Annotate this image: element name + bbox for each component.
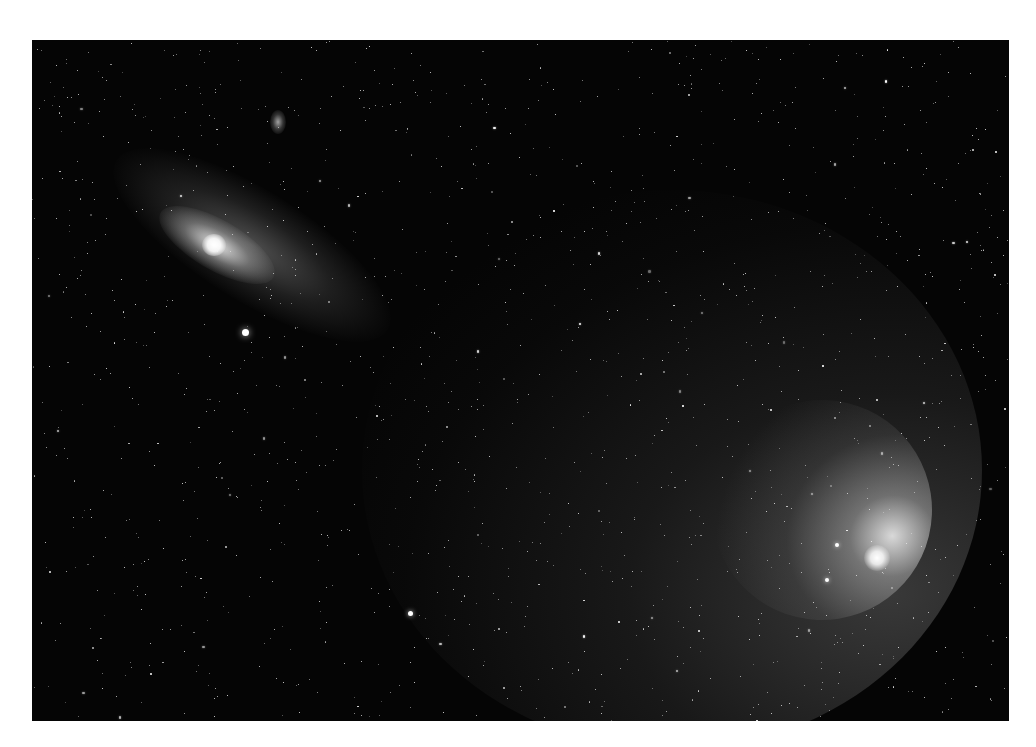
star bbox=[667, 41, 668, 42]
star bbox=[448, 540, 449, 541]
star bbox=[329, 41, 330, 42]
star bbox=[985, 389, 986, 390]
star bbox=[794, 307, 795, 308]
star bbox=[207, 172, 208, 173]
star bbox=[941, 401, 942, 402]
star bbox=[719, 83, 720, 84]
star bbox=[609, 522, 610, 523]
star bbox=[824, 230, 825, 231]
star bbox=[135, 304, 136, 305]
star bbox=[579, 323, 581, 325]
star bbox=[465, 469, 466, 470]
star bbox=[471, 149, 473, 151]
star bbox=[631, 211, 632, 212]
star bbox=[238, 60, 239, 61]
star bbox=[734, 119, 735, 120]
star bbox=[691, 544, 692, 545]
star bbox=[923, 402, 925, 404]
star bbox=[123, 311, 125, 313]
star bbox=[267, 121, 268, 122]
star bbox=[691, 88, 692, 89]
star bbox=[432, 469, 433, 470]
star bbox=[941, 350, 943, 352]
star bbox=[922, 621, 923, 622]
star bbox=[251, 183, 252, 184]
star bbox=[206, 411, 207, 412]
star bbox=[190, 442, 191, 443]
star bbox=[634, 519, 635, 520]
star bbox=[530, 174, 531, 175]
star bbox=[690, 75, 691, 76]
star bbox=[835, 359, 836, 360]
star bbox=[869, 214, 871, 216]
star bbox=[227, 695, 228, 696]
star bbox=[274, 629, 275, 630]
star bbox=[671, 209, 673, 211]
star bbox=[580, 569, 581, 570]
star bbox=[544, 717, 545, 718]
star bbox=[347, 529, 348, 530]
star bbox=[925, 317, 926, 318]
star bbox=[439, 337, 440, 338]
star bbox=[798, 399, 799, 400]
star bbox=[942, 711, 944, 713]
star bbox=[611, 171, 612, 172]
star bbox=[674, 170, 675, 171]
star bbox=[207, 540, 208, 541]
star bbox=[523, 293, 524, 294]
star bbox=[373, 372, 374, 373]
star bbox=[710, 678, 711, 679]
star bbox=[940, 54, 941, 55]
star bbox=[145, 116, 146, 117]
star bbox=[666, 711, 667, 712]
star bbox=[175, 151, 176, 152]
star bbox=[607, 395, 608, 396]
star bbox=[607, 235, 608, 236]
star bbox=[82, 179, 83, 180]
star bbox=[227, 127, 228, 128]
star bbox=[695, 535, 696, 536]
star bbox=[400, 102, 402, 104]
star bbox=[621, 532, 622, 533]
star bbox=[637, 482, 638, 483]
star bbox=[928, 612, 929, 613]
star bbox=[973, 347, 974, 348]
star bbox=[584, 651, 585, 652]
star bbox=[112, 290, 113, 291]
star bbox=[399, 181, 400, 182]
star bbox=[525, 124, 526, 125]
star bbox=[514, 265, 515, 266]
star bbox=[199, 87, 200, 88]
star bbox=[643, 258, 644, 259]
star bbox=[911, 194, 913, 196]
star bbox=[883, 414, 884, 415]
star bbox=[131, 43, 132, 44]
star bbox=[186, 388, 187, 389]
star bbox=[101, 638, 102, 639]
star bbox=[951, 698, 952, 699]
star bbox=[130, 662, 132, 664]
star bbox=[182, 483, 183, 484]
star bbox=[540, 237, 541, 238]
star bbox=[381, 701, 382, 702]
star bbox=[761, 613, 762, 614]
star bbox=[333, 460, 334, 461]
star bbox=[59, 106, 60, 107]
star bbox=[410, 497, 411, 498]
star bbox=[58, 427, 59, 428]
star bbox=[789, 192, 790, 193]
star bbox=[713, 143, 714, 144]
star bbox=[539, 215, 540, 216]
star bbox=[292, 267, 293, 268]
star bbox=[888, 356, 889, 357]
star bbox=[94, 199, 95, 200]
star bbox=[740, 676, 741, 677]
star bbox=[784, 521, 785, 522]
star bbox=[77, 278, 78, 279]
star bbox=[117, 198, 118, 199]
star bbox=[106, 80, 107, 81]
star bbox=[429, 356, 430, 357]
star bbox=[991, 215, 992, 216]
star bbox=[538, 100, 539, 101]
star bbox=[307, 191, 308, 192]
